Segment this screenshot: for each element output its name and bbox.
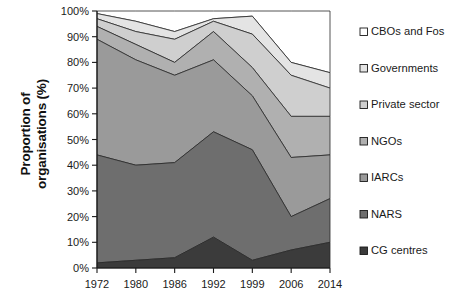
x-axis-ticks: 1972198019861992199920062014 [85, 268, 342, 290]
y-tick-label: 80% [67, 56, 89, 68]
chart-figure: Proportion of organisations (%) 0%10%20%… [0, 0, 449, 303]
legend-label: IARCs [371, 171, 404, 183]
y-tick-label: 20% [67, 211, 89, 223]
x-tick-label: 1972 [85, 278, 109, 290]
legend-swatch [360, 247, 368, 255]
legend-label: CBOs and Fos [371, 25, 445, 37]
x-tick-label: 1980 [124, 278, 148, 290]
x-tick-label: 2006 [279, 278, 303, 290]
legend-item[interactable]: CG centres [360, 244, 428, 256]
legend-swatch [360, 138, 368, 146]
legend-swatch [360, 28, 368, 36]
area-series-group [97, 11, 330, 268]
chart-legend: CBOs and FosGovernmentsPrivate sectorNGO… [360, 25, 445, 256]
legend-item[interactable]: CBOs and Fos [360, 25, 445, 37]
y-tick-label: 70% [67, 82, 89, 94]
legend-label: NGOs [371, 135, 402, 147]
legend-item[interactable]: Governments [360, 62, 439, 74]
y-tick-label: 0% [73, 262, 89, 274]
legend-swatch [360, 174, 368, 182]
y-tick-label: 100% [61, 5, 89, 17]
stacked-area-chart: 0%10%20%30%40%50%60%70%80%90%100% 197219… [0, 0, 449, 303]
legend-swatch [360, 65, 368, 73]
x-tick-label: 1986 [162, 278, 186, 290]
legend-item[interactable]: Private sector [360, 98, 440, 110]
y-tick-label: 40% [67, 159, 89, 171]
legend-swatch [360, 101, 368, 109]
x-tick-label: 2014 [318, 278, 342, 290]
legend-label: NARS [371, 208, 402, 220]
y-tick-label: 90% [67, 31, 89, 43]
y-tick-label: 30% [67, 185, 89, 197]
x-tick-label: 1992 [201, 278, 225, 290]
y-tick-label: 50% [67, 134, 89, 146]
y-tick-label: 60% [67, 108, 89, 120]
legend-label: Governments [371, 62, 439, 74]
y-axis-ticks: 0%10%20%30%40%50%60%70%80%90%100% [61, 5, 97, 274]
y-tick-label: 10% [67, 236, 89, 248]
legend-label: CG centres [371, 244, 428, 256]
legend-swatch [360, 211, 368, 219]
legend-item[interactable]: IARCs [360, 171, 404, 183]
legend-item[interactable]: NARS [360, 208, 402, 220]
legend-item[interactable]: NGOs [360, 135, 402, 147]
legend-label: Private sector [371, 98, 440, 110]
x-tick-label: 1999 [240, 278, 264, 290]
